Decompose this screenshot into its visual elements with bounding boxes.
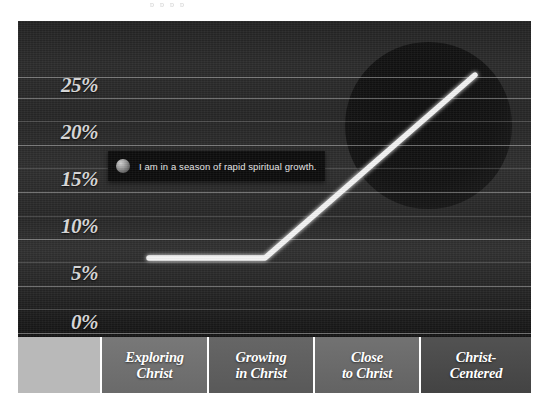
- x-axis-label-close-to-christ: Close to Christ: [342, 349, 392, 381]
- legend-label: I am in a season of rapid spiritual grow…: [139, 161, 317, 172]
- x-axis-cell-growing-in-christ[interactable]: Growing in Christ: [209, 337, 315, 393]
- x-axis-category-band: Exploring Christ Growing in Christ Close…: [18, 337, 531, 393]
- y-axis-label-0: 0%: [26, 310, 98, 335]
- legend-bullet-icon: [116, 159, 130, 173]
- x-axis-label-exploring-christ: Exploring Christ: [125, 349, 184, 381]
- y-axis-label-20: 20%: [26, 120, 98, 145]
- x-axis-cell-exploring-christ[interactable]: Exploring Christ: [102, 337, 209, 393]
- x-label-line1: Exploring: [125, 349, 184, 365]
- chart-frame: 25% 20% 15% 10% 5% 0% I am in a season o…: [18, 21, 531, 393]
- x-axis-cell-blank: [18, 337, 102, 393]
- x-axis-cell-close-to-christ[interactable]: Close to Christ: [315, 337, 421, 393]
- x-axis-label-growing-in-christ: Growing in Christ: [236, 349, 287, 381]
- y-axis-label-5: 5%: [26, 261, 98, 286]
- screenshot-stage: p p p p: [0, 0, 550, 410]
- chart-legend[interactable]: I am in a season of rapid spiritual grow…: [108, 151, 325, 181]
- x-label-line2: to Christ: [342, 365, 392, 381]
- x-label-line1: Christ-: [456, 349, 497, 365]
- y-axis-label-15: 15%: [26, 167, 98, 192]
- x-axis-label-christ-centered: Christ- Centered: [450, 349, 502, 381]
- scan-artifact-text: p p p p: [150, 0, 410, 7]
- x-label-line2: Centered: [450, 365, 502, 381]
- x-label-line1: Close: [351, 349, 383, 365]
- y-axis-label-25: 25%: [26, 73, 98, 98]
- y-axis-label-10: 10%: [26, 214, 98, 239]
- x-label-line2: Christ: [137, 365, 173, 381]
- x-label-line1: Growing: [236, 349, 287, 365]
- x-axis-cell-christ-centered[interactable]: Christ- Centered: [421, 337, 531, 393]
- x-label-line2: in Christ: [236, 365, 287, 381]
- plot-area: 25% 20% 15% 10% 5% 0% I am in a season o…: [18, 21, 531, 337]
